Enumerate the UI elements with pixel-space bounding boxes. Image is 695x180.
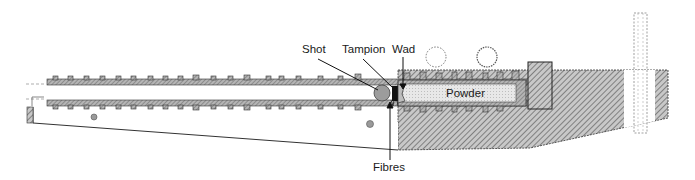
pin-left bbox=[91, 114, 97, 120]
bed-end-block bbox=[27, 107, 33, 123]
label-wad: Wad bbox=[392, 44, 415, 56]
label-shot: Shot bbox=[302, 44, 326, 56]
label-powder: Powder bbox=[446, 88, 485, 100]
breech-block bbox=[528, 62, 552, 109]
shot-ball bbox=[374, 85, 390, 101]
lower-bed bbox=[26, 84, 398, 150]
label-fibres: Fibres bbox=[373, 162, 405, 174]
tampion-plug bbox=[392, 86, 398, 101]
pin-middle bbox=[367, 121, 374, 128]
cannon-cross-section-diagram bbox=[0, 0, 695, 180]
label-tampion: Tampion bbox=[342, 44, 385, 56]
ring-outline-right bbox=[477, 47, 497, 67]
ring-outline-left bbox=[426, 47, 446, 67]
